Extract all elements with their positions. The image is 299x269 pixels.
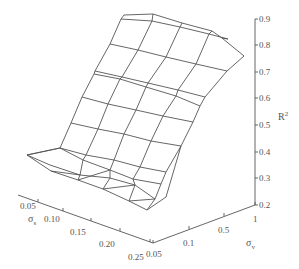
y-tick-1: 1: [253, 214, 258, 224]
x-tick-0.15: 0.15: [70, 227, 86, 237]
z-axis-label: R2: [278, 110, 289, 122]
z-tick-0.4: 0.4: [259, 147, 271, 157]
z-tick-0.6: 0.6: [259, 93, 271, 103]
surface-plot: 0.9 0.8 0.7 0.6 0.5 0.4 0.3 0.2 R2 0.05 …: [0, 0, 299, 269]
y-tick-0.05: 0.05: [146, 249, 162, 259]
x-tick-0.25: 0.25: [128, 252, 144, 262]
y-axis: 0.05 0.1 0.5 1 σv: [146, 202, 258, 259]
z-axis: 0.9 0.8 0.7 0.6 0.5 0.4 0.3 0.2 R2: [255, 14, 289, 210]
y-tick-0.1: 0.1: [183, 238, 194, 248]
z-tick-0.2: 0.2: [259, 200, 270, 210]
x-tick-0.05: 0.05: [20, 201, 36, 211]
y-tick-0.5: 0.5: [218, 225, 230, 235]
x-axis-label: σs: [28, 213, 36, 227]
x-axis: 0.05 0.10 0.15 0.20 0.25 σs: [18, 195, 153, 262]
y-axis-label: σv: [246, 237, 255, 251]
z-tick-0.3: 0.3: [259, 173, 271, 183]
z-tick-0.5: 0.5: [259, 120, 271, 130]
surface-wireframe: [27, 14, 244, 210]
z-tick-0.9: 0.9: [259, 14, 271, 24]
z-tick-0.7: 0.7: [259, 67, 271, 77]
x-tick-0.10: 0.10: [44, 214, 60, 224]
x-tick-0.20: 0.20: [99, 239, 115, 249]
z-tick-0.8: 0.8: [259, 40, 271, 50]
